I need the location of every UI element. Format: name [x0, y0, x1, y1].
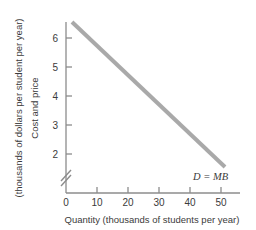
x-tick-label-10: 10: [91, 197, 103, 208]
x-axis-ticks: [97, 187, 221, 193]
y-axis-title-line2: (thousands of dollars per student per ye…: [13, 18, 24, 197]
chart-figure: 6 5 4 3 2 0 10 20 30 40 50 Quantity (tho…: [0, 0, 256, 230]
y-axis-title-line1: Cost and price: [29, 77, 40, 138]
x-tick-label-50: 50: [215, 197, 227, 208]
demand-marginal-benefit-curve: [72, 22, 225, 167]
chart-canvas: 6 5 4 3 2 0 10 20 30 40 50 Quantity (tho…: [0, 0, 256, 230]
x-tick-label-0: 0: [63, 197, 69, 208]
x-tick-label-30: 30: [153, 197, 165, 208]
y-tick-label-6: 6: [52, 33, 58, 44]
y-axis-ticks: [66, 38, 72, 154]
y-tick-label-3: 3: [52, 120, 58, 131]
y-tick-label-5: 5: [52, 62, 58, 73]
x-axis-title: Quantity (thousands of students per year…: [65, 214, 240, 225]
demand-curve-label: D = MB: [192, 171, 229, 182]
y-tick-label-4: 4: [52, 91, 58, 102]
x-tick-label-40: 40: [184, 197, 196, 208]
y-tick-label-2: 2: [52, 149, 58, 160]
x-tick-label-20: 20: [122, 197, 134, 208]
